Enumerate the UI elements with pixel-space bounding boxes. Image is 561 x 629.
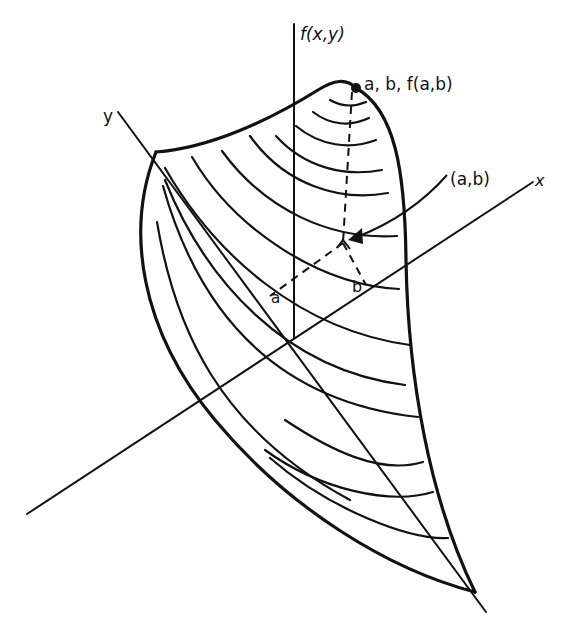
surface-contours <box>157 100 448 538</box>
arrowhead-icon <box>348 228 363 244</box>
surface-diagram: f(x,y) a, b, f(a,b) y x (a,b) a b <box>0 0 561 629</box>
projection-arrow <box>348 175 447 244</box>
b-label: b <box>352 277 362 296</box>
x-axis-label: x <box>534 171 545 190</box>
peak-point <box>351 83 361 93</box>
x-axis <box>27 182 533 514</box>
vertical-drop-line <box>343 92 352 243</box>
a-label: a <box>271 289 280 307</box>
projection-label: (a,b) <box>450 169 490 189</box>
peak-point-label: a, b, f(a,b) <box>364 74 453 94</box>
f-axis-label: f(x,y) <box>300 24 345 44</box>
y-axis-label: y <box>103 106 113 126</box>
surface-left-edge <box>141 152 475 592</box>
a-projection-line <box>270 243 343 296</box>
